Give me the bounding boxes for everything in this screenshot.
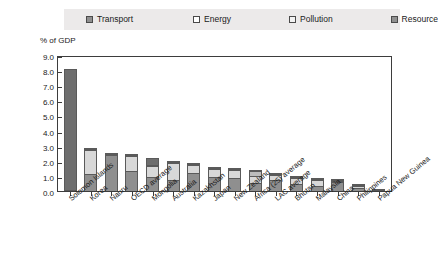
legend-item-pollution[interactable]: Pollution	[289, 15, 333, 24]
legend-label-pollution: Pollution	[300, 15, 333, 24]
bar-column[interactable]	[125, 57, 138, 191]
bar-column[interactable]	[372, 57, 385, 191]
legend-label-transport: Transport	[97, 15, 133, 24]
legend-label-resource: Resource	[402, 15, 438, 24]
bar-column[interactable]	[64, 57, 77, 191]
legend-swatch-energy-icon	[193, 16, 200, 23]
y-tick-label: 5.0	[43, 113, 54, 122]
legend-label-energy: Energy	[204, 15, 231, 24]
legend-swatch-pollution-icon	[289, 16, 296, 23]
y-tick-label: 9.0	[43, 53, 54, 62]
y-tick-label: 3.0	[43, 143, 54, 152]
y-tick-label: 6.0	[43, 98, 54, 107]
chart-legend: Transport Energy Pollution Resource	[64, 9, 400, 30]
y-tick-label: 0.0	[43, 189, 54, 198]
legend-swatch-transport-icon	[86, 16, 93, 23]
y-tick-label: 2.0	[43, 158, 54, 167]
bar-column[interactable]	[331, 57, 344, 191]
legend-item-resource[interactable]: Resource	[391, 15, 438, 24]
bar-segment-energy	[125, 156, 138, 172]
x-axis-labels: Solomon IslandsKoreaNauruOECD averageMon…	[57, 196, 392, 262]
legend-item-energy[interactable]: Energy	[193, 15, 231, 24]
y-tick-label: 1.0	[43, 173, 54, 182]
bar-segment-energy	[187, 165, 200, 173]
bar-segment-energy	[228, 170, 241, 178]
bar-column[interactable]	[187, 57, 200, 191]
legend-swatch-resource-icon	[391, 16, 398, 23]
y-tick-label: 7.0	[43, 83, 54, 92]
bar-column[interactable]	[228, 57, 241, 191]
y-axis-title: % of GDP	[40, 36, 76, 45]
bar-column[interactable]	[311, 57, 324, 191]
bar-segment-resource	[64, 69, 77, 190]
bar-segment-resource	[146, 158, 159, 165]
legend-item-transport[interactable]: Transport	[86, 15, 133, 24]
y-tick-label: 8.0	[43, 68, 54, 77]
bar-column[interactable]	[352, 57, 365, 191]
y-tick-label: 4.0	[43, 128, 54, 137]
